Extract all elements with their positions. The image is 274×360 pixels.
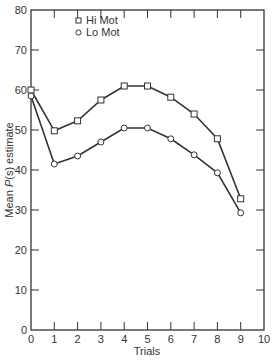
circle-marker bbox=[51, 161, 57, 167]
series-hi-mot bbox=[28, 83, 244, 202]
x-tick-label: 10 bbox=[258, 333, 270, 345]
circle-marker bbox=[28, 93, 34, 99]
x-tick-label: 3 bbox=[98, 333, 104, 345]
x-tick-label: 7 bbox=[191, 333, 197, 345]
series-lo-mot bbox=[28, 93, 244, 216]
legend-item-hi-mot: Hi Mot bbox=[76, 14, 118, 26]
y-tick-label: 10 bbox=[15, 284, 27, 296]
circle-marker bbox=[168, 136, 174, 142]
circle-marker bbox=[121, 125, 127, 131]
circle-marker bbox=[145, 125, 151, 131]
circle-marker bbox=[75, 153, 81, 159]
square-marker bbox=[214, 136, 220, 142]
y-tick-label: 20 bbox=[15, 244, 27, 256]
square-marker bbox=[51, 128, 57, 134]
x-tick-label: 6 bbox=[168, 333, 174, 345]
y-tick-label: 0 bbox=[21, 324, 27, 336]
x-tick-label: 5 bbox=[144, 333, 150, 345]
legend-label: Lo Mot bbox=[86, 26, 120, 38]
square-marker bbox=[75, 118, 81, 124]
x-tick-label: 9 bbox=[238, 333, 244, 345]
square-marker bbox=[238, 196, 244, 202]
line-chart: 01020304050607080 012345678910 Hi MotLo … bbox=[0, 0, 274, 360]
circle-marker bbox=[191, 152, 197, 158]
circle-marker bbox=[238, 210, 244, 216]
square-icon bbox=[76, 18, 81, 23]
y-axis: 01020304050607080 bbox=[15, 4, 264, 336]
square-marker bbox=[98, 97, 104, 103]
legend-label: Hi Mot bbox=[86, 14, 118, 26]
x-tick-label: 1 bbox=[51, 333, 57, 345]
y-tick-label: 60 bbox=[15, 84, 27, 96]
y-tick-label: 80 bbox=[15, 4, 27, 16]
x-tick-label: 0 bbox=[28, 333, 34, 345]
x-tick-label: 4 bbox=[121, 333, 127, 345]
x-axis-label: Trials bbox=[134, 345, 161, 357]
x-axis: 012345678910 bbox=[28, 10, 270, 345]
square-marker bbox=[168, 94, 174, 100]
circle-icon bbox=[76, 30, 81, 35]
circle-marker bbox=[214, 170, 220, 176]
y-axis-label: Mean P(s) estimate bbox=[3, 122, 15, 217]
x-tick-label: 2 bbox=[75, 333, 81, 345]
data-series bbox=[28, 83, 244, 216]
square-marker bbox=[145, 83, 151, 89]
legend-item-lo-mot: Lo Mot bbox=[76, 26, 120, 38]
x-tick-label: 8 bbox=[214, 333, 220, 345]
square-marker bbox=[28, 87, 34, 93]
y-tick-label: 70 bbox=[15, 44, 27, 56]
y-tick-label: 50 bbox=[15, 124, 27, 136]
circle-marker bbox=[98, 139, 104, 145]
y-tick-label: 30 bbox=[15, 204, 27, 216]
legend: Hi MotLo Mot bbox=[76, 14, 120, 38]
square-marker bbox=[121, 83, 127, 89]
square-marker bbox=[191, 111, 197, 117]
y-tick-label: 40 bbox=[15, 164, 27, 176]
